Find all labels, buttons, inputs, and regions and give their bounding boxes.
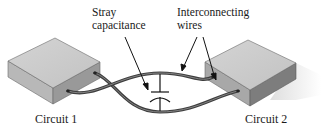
stray-capacitance-diagram: Stray capacitance Interconnecting wires … <box>0 0 321 128</box>
circuit-1-box <box>8 38 100 104</box>
interconnecting-wires-label: Interconnecting wires <box>177 6 249 32</box>
arrow-wire-1 <box>184 37 197 66</box>
interconnecting-wires-label-line2: wires <box>177 19 249 32</box>
diagram-canvas <box>0 0 321 128</box>
stray-capacitance-label-line2: capacitance <box>92 19 146 32</box>
annotation-arrows <box>125 37 216 90</box>
interconnecting-wires-label-line1: Interconnecting <box>177 6 249 19</box>
circuit-2-label: Circuit 2 <box>245 113 287 126</box>
stray-capacitance-label-line1: Stray <box>92 6 146 19</box>
stray-capacitance-label: Stray capacitance <box>92 6 146 32</box>
capacitor-symbol <box>150 74 170 111</box>
circuit-1-label: Circuit 1 <box>35 113 77 126</box>
